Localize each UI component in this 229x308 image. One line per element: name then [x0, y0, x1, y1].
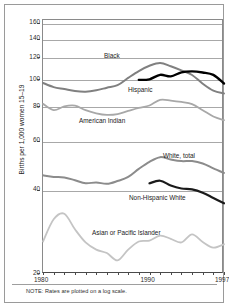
- series-label-asian-or-pacific-islander: Asian or Pacific Islander: [92, 229, 161, 236]
- y-tick-label-100: 100: [29, 76, 40, 82]
- x-tick-label-1990: 1990: [141, 276, 155, 283]
- series-label-hispanic: Hispanic: [128, 86, 153, 93]
- y-tick-label-60: 60: [33, 137, 40, 143]
- note-divider: [12, 284, 217, 285]
- y-tick-label-40: 40: [33, 186, 40, 192]
- x-tick-label-1980: 1980: [34, 276, 48, 283]
- y-tick-label-20: 20: [33, 270, 40, 276]
- series-label-american-indian: American Indian: [79, 117, 125, 124]
- series-label-black: Black: [104, 52, 120, 59]
- figure-container: Births per 1,000 women 15–19 16014012010…: [0, 0, 229, 308]
- series-label-white-total: White, total: [163, 152, 195, 159]
- y-axis-tick-labels: 16014012010080604020: [14, 0, 40, 308]
- y-tick-label-120: 120: [29, 54, 40, 60]
- series-line-hispanic: [139, 71, 224, 83]
- y-tick-label-80: 80: [33, 103, 40, 109]
- series-line-asian-or-pacific-islander: [43, 213, 224, 260]
- chart-note: NOTE: Rates are plotted on a log scale.: [26, 288, 127, 294]
- y-tick-label-140: 140: [29, 35, 40, 41]
- series-label-non-hispanic-white: Non-Hispanic White: [129, 194, 185, 201]
- series-line-american-indian: [43, 100, 224, 121]
- series-line-white-total: [43, 157, 224, 184]
- y-tick-label-160: 160: [29, 19, 40, 25]
- x-tick-mark-1997: [224, 272, 225, 275]
- x-tick-label-1997: 1997: [215, 276, 229, 283]
